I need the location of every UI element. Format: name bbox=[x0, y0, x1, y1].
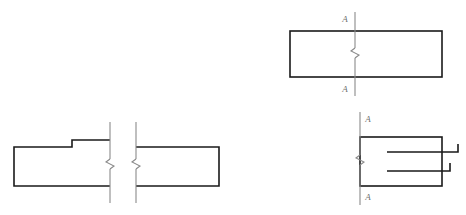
figure-bottom-left-broken bbox=[14, 122, 219, 203]
bottom-left-break-jog-right-icon bbox=[132, 159, 140, 169]
technical-drawing-canvas: A A A A bbox=[0, 0, 466, 215]
top-right-break-jog-icon bbox=[351, 48, 359, 58]
top-right-section-label-top: A bbox=[341, 14, 348, 24]
bottom-right-hook-line-upper bbox=[387, 144, 458, 152]
bottom-left-profile-right-half bbox=[136, 147, 219, 186]
top-right-section-label-bottom: A bbox=[341, 84, 348, 94]
figure-bottom-right-section: A A bbox=[356, 112, 458, 205]
bottom-left-profile-left-half bbox=[14, 140, 110, 186]
figure-top-right-section: A A bbox=[290, 12, 442, 96]
bottom-right-hook-line-lower bbox=[387, 163, 450, 171]
bottom-right-rectangle-outline bbox=[360, 137, 442, 186]
bottom-right-section-label-bottom: A bbox=[364, 192, 371, 202]
bottom-left-break-jog-left-icon bbox=[106, 159, 114, 169]
bottom-right-section-label-top: A bbox=[364, 114, 371, 124]
drawing-sheet: A A A A bbox=[0, 0, 466, 215]
top-right-rectangle-outline bbox=[290, 31, 442, 77]
